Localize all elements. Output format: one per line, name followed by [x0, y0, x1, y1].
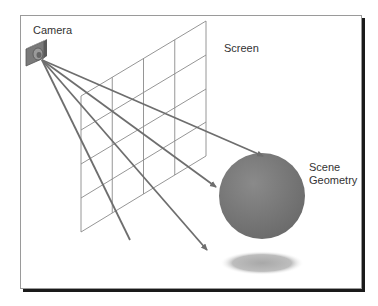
- ray-tracing-diagram: [0, 0, 378, 306]
- scene-geometry-label-line1: Scene: [309, 161, 340, 174]
- sphere-shadow: [220, 251, 304, 275]
- camera-label: Camera: [33, 24, 72, 37]
- screen-label: Screen: [224, 42, 259, 55]
- scene-sphere: [219, 153, 305, 239]
- scene-geometry-label-line2: Geometry: [309, 174, 357, 187]
